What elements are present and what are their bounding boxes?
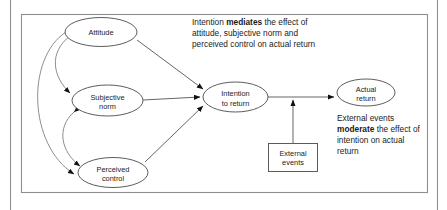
perceived-control-label-line2: control	[102, 174, 125, 183]
subjective-norm-label-line2: norm	[99, 102, 116, 111]
subjective-norm-label-line1: Subjective	[90, 93, 124, 102]
figure-root: Attitude Subjective norm Perceived contr…	[0, 0, 447, 210]
mediation-line3: perceived control on actual return	[192, 39, 316, 49]
moderation-line3: intention on actual	[337, 135, 405, 145]
mediation-keyword: mediates	[226, 17, 262, 27]
perceived-control-label-line1: Perceived	[97, 165, 130, 174]
node-perceived-control: Perceived control	[78, 158, 148, 188]
path-subjective-norm-to-intention	[143, 97, 200, 100]
arc-subjective-norm-perceived-control	[63, 112, 80, 166]
arc-attitude-subjective-norm	[55, 36, 70, 93]
actual-return-label-line2: return	[356, 94, 375, 103]
arc-attitude-perceived-control	[38, 32, 74, 174]
annotation-mediation: Intention mediates the effect of attitud…	[192, 17, 316, 49]
mediation-line2: attitude, subjective norm and	[192, 28, 298, 38]
actual-return-label-line1: Actual	[356, 85, 377, 94]
path-diagram: Attitude Subjective norm Perceived contr…	[0, 0, 447, 210]
moderation-line1: External events	[337, 113, 394, 123]
attitude-label-line1: Attitude	[88, 28, 113, 37]
external-events-label-line1: External	[279, 149, 306, 158]
moderation-line2-suffix: the effect of	[374, 124, 420, 134]
node-external-events: External events	[269, 144, 318, 172]
moderation-line4: return	[337, 146, 359, 156]
intention-label-line1: Intention	[221, 89, 249, 98]
mediation-line1-prefix: Intention	[192, 17, 226, 27]
node-actual-return: Actual return	[337, 79, 395, 106]
mediation-line1-suffix: the effect of	[262, 17, 308, 27]
intention-label-line2: to return	[222, 99, 250, 108]
external-events-label-line2: events	[282, 158, 304, 167]
node-intention: Intention to return	[203, 82, 268, 112]
node-subjective-norm: Subjective norm	[72, 85, 143, 116]
node-attitude: Attitude	[65, 18, 137, 47]
path-perceived-control-to-intention	[145, 106, 203, 162]
svg-text:Intention mediates the effect: Intention mediates the effect of	[192, 17, 308, 27]
svg-text:moderate the effect of: moderate the effect of	[337, 124, 421, 134]
annotation-moderation: External events moderate the effect of i…	[337, 113, 421, 156]
moderation-keyword: moderate	[337, 124, 375, 134]
